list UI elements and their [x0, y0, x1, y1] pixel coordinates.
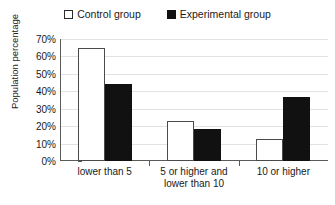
y-axis-tick-labels: 0%10%20%30%40%50%60%70%: [22, 39, 56, 161]
bar-experimental: [194, 129, 221, 161]
bar-experimental: [283, 97, 310, 161]
x-axis-category-label-line: 10 or higher: [239, 166, 328, 178]
bar-groups: [60, 39, 328, 161]
legend-item-experimental-group: Experimental group: [167, 9, 271, 20]
bar-group: [239, 39, 328, 161]
bar-control: [167, 121, 194, 161]
legend-label-control-group: Control group: [77, 9, 141, 20]
legend-swatch-open-square-icon: [64, 10, 73, 19]
legend-swatch-filled-square-icon: [167, 10, 176, 19]
legend-item-control-group: Control group: [64, 9, 141, 20]
bar-control: [78, 48, 105, 161]
bar-chart: Control group Experimental group Populat…: [0, 0, 335, 205]
y-axis-tick-label: 70%: [36, 34, 56, 45]
x-axis-category-labels: lower than 55 or higher andlower than 10…: [60, 166, 328, 190]
y-axis-tick-label: 60%: [36, 51, 56, 62]
x-axis-category-label: lower than 5: [60, 166, 149, 190]
y-axis-tick-label: 20%: [36, 121, 56, 132]
bar-experimental: [105, 84, 132, 161]
y-axis-tick-label: 10%: [36, 138, 56, 149]
y-axis-tick-label: 50%: [36, 68, 56, 79]
y-axis-tick-label: 40%: [36, 86, 56, 97]
chart-legend: Control group Experimental group: [0, 9, 335, 20]
x-axis-category-label-line: lower than 10: [149, 178, 238, 190]
y-axis-title: Population percentage: [9, 2, 20, 122]
y-axis-tick-mark: [78, 161, 82, 162]
legend-label-experimental-group: Experimental group: [180, 9, 271, 20]
x-axis-category-label: 10 or higher: [239, 166, 328, 190]
bar-group: [149, 39, 238, 161]
bar-control: [256, 139, 283, 161]
x-axis-category-label-line: lower than 5: [60, 166, 149, 178]
bar-group: [60, 39, 149, 161]
x-axis-category-label-line: 5 or higher and: [149, 166, 238, 178]
x-axis-category-label: 5 or higher andlower than 10: [149, 166, 238, 190]
plot-area: [60, 39, 328, 161]
y-axis-tick-label: 0%: [42, 156, 56, 167]
y-axis-tick-label: 30%: [36, 103, 56, 114]
